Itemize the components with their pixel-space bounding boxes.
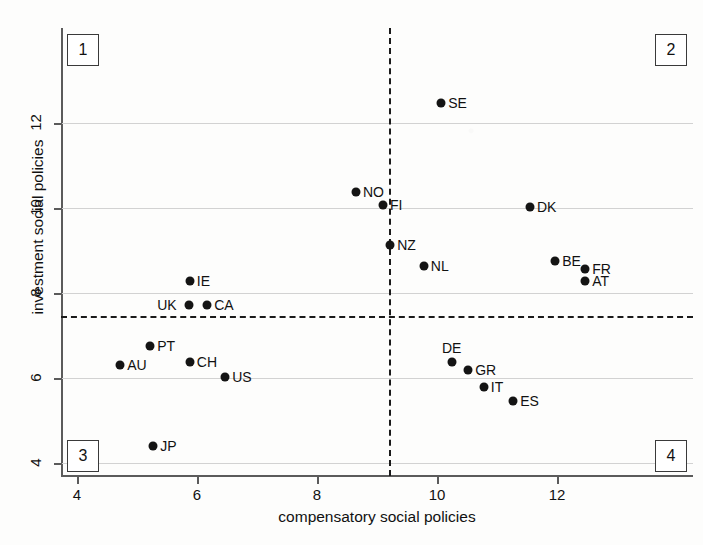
point-label-se: SE <box>448 96 467 110</box>
data-point-au[interactable] <box>116 361 125 370</box>
data-point-es[interactable] <box>509 396 518 405</box>
gridline-y-8 <box>61 293 693 294</box>
y-tick-label-6: 6 <box>27 363 44 393</box>
data-point-be[interactable] <box>551 257 560 266</box>
point-label-at: AT <box>592 274 609 288</box>
vertical-reference-line <box>389 28 391 476</box>
point-label-it: IT <box>491 380 503 394</box>
data-point-pt[interactable] <box>146 341 155 350</box>
data-point-gr[interactable] <box>464 366 473 375</box>
point-label-no: NO <box>363 185 384 199</box>
data-point-ie[interactable] <box>185 277 194 286</box>
x-tick-label-8: 8 <box>302 486 332 503</box>
gridline-y-12 <box>61 123 693 124</box>
y-tick-4 <box>54 463 62 465</box>
point-label-ca: CA <box>214 298 233 312</box>
data-point-se[interactable] <box>437 99 446 108</box>
x-tick-6 <box>197 476 199 484</box>
quadrant-label-4: 4 <box>655 440 687 472</box>
x-axis-title: compensatory social policies <box>61 508 693 526</box>
data-point-no[interactable] <box>352 187 361 196</box>
point-label-nz: NZ <box>397 238 416 252</box>
point-label-jp: JP <box>160 439 176 453</box>
data-point-fi[interactable] <box>379 201 388 210</box>
data-point-nl[interactable] <box>419 261 428 270</box>
data-point-ca[interactable] <box>203 300 212 309</box>
data-point-nz[interactable] <box>386 240 395 249</box>
data-point-uk[interactable] <box>185 300 194 309</box>
y-axis-title: investment social policies <box>29 107 47 347</box>
data-point-ch[interactable] <box>185 358 194 367</box>
x-tick-8 <box>317 476 319 484</box>
point-label-fi: FI <box>390 198 402 212</box>
data-point-fr[interactable] <box>581 265 590 274</box>
x-tick-label-10: 10 <box>422 486 452 503</box>
gridline-y-4 <box>61 463 693 464</box>
data-point-it[interactable] <box>479 382 488 391</box>
data-point-de[interactable] <box>448 358 457 367</box>
y-tick-10 <box>54 208 62 210</box>
quadrant-label-2: 2 <box>655 34 687 66</box>
quadrant-label-3: 3 <box>67 440 99 472</box>
y-tick-12 <box>54 123 62 125</box>
x-tick-4 <box>77 476 79 484</box>
y-tick-label-4: 4 <box>27 448 44 478</box>
x-tick-12 <box>557 476 559 484</box>
y-axis-line <box>61 28 63 476</box>
x-tick-label-6: 6 <box>182 486 212 503</box>
point-label-ie: IE <box>197 274 210 288</box>
x-tick-10 <box>437 476 439 484</box>
point-label-es: ES <box>520 394 539 408</box>
gridline-y-10 <box>61 208 693 209</box>
scatter-plot-figure: 4681012 4681012 SENOFIDKNZNLBEFRATIEUKCA… <box>0 0 703 545</box>
point-label-nl: NL <box>431 259 449 273</box>
point-label-be: BE <box>562 254 581 268</box>
x-tick-label-12: 12 <box>542 486 572 503</box>
horizontal-reference-line <box>61 316 693 318</box>
point-label-au: AU <box>127 358 146 372</box>
x-axis-line <box>61 475 693 477</box>
quadrant-label-1: 1 <box>67 34 99 66</box>
data-point-jp[interactable] <box>149 442 158 451</box>
gridline-y-6 <box>61 378 693 379</box>
y-tick-6 <box>54 378 62 380</box>
data-point-at[interactable] <box>581 277 590 286</box>
point-label-ch: CH <box>197 355 217 369</box>
data-point-us[interactable] <box>221 373 230 382</box>
y-tick-8 <box>54 293 62 295</box>
point-label-de: DE <box>442 341 461 355</box>
x-tick-label-4: 4 <box>62 486 92 503</box>
point-label-uk: UK <box>157 298 176 312</box>
data-point-dk[interactable] <box>526 203 535 212</box>
point-label-gr: GR <box>475 363 496 377</box>
point-label-us: US <box>232 370 251 384</box>
point-label-dk: DK <box>537 200 556 214</box>
point-label-pt: PT <box>157 339 175 353</box>
